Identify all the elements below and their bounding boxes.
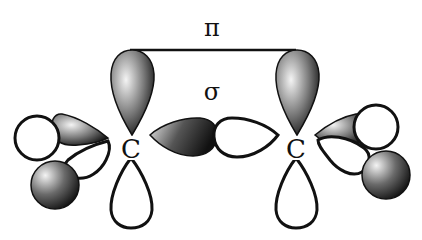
orbital-diagram: π σ C C: [0, 0, 422, 240]
left-p-orbital-bottom-lobe: [111, 158, 152, 228]
right-p-orbital-top-lobe: [276, 50, 319, 135]
pi-label: π: [204, 14, 220, 42]
sigma-orbital-open-lobe: [214, 118, 278, 157]
right-open-sphere: [354, 105, 398, 149]
right-carbon-label: C: [286, 134, 306, 164]
sigma-orbital-shaded-lobe: [150, 118, 217, 156]
right-shaded-sphere: [362, 151, 410, 199]
left-open-sphere: [15, 116, 59, 160]
left-p-orbital-top-lobe: [111, 50, 154, 135]
right-p-orbital-bottom-lobe: [276, 158, 317, 228]
sigma-label: σ: [204, 78, 220, 106]
left-shaded-sphere: [31, 161, 79, 209]
left-carbon-label: C: [121, 134, 141, 164]
